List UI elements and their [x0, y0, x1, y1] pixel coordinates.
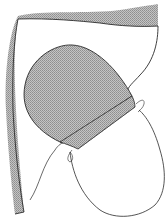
sewing-diagram: [0, 0, 167, 223]
shaded-patch: [24, 45, 132, 143]
thread-left-tail: [30, 142, 64, 200]
top-shaded-band: [18, 4, 158, 26]
thread-knot: [136, 100, 144, 112]
